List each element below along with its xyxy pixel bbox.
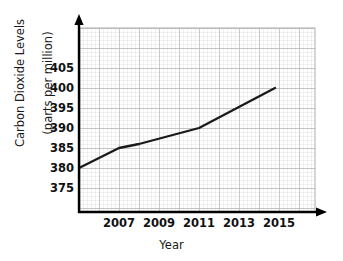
co2-line-chart: Carbon Dioxide Levels (parts per million…: [0, 0, 343, 261]
plot-area: [0, 0, 343, 261]
grid: [80, 28, 315, 212]
